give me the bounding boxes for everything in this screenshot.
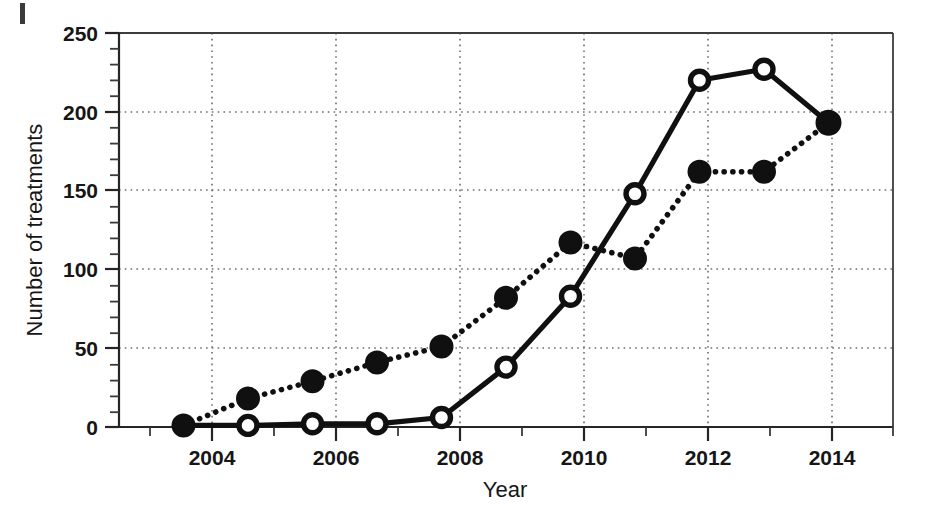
vertical-gridlines: [212, 33, 832, 427]
series-dotted-line: [184, 123, 829, 426]
x-axis-tick-labels: 2004 2006 2008 2010 2012 2014: [189, 446, 856, 469]
x-axis-minor-ticks: [150, 427, 893, 436]
horizontal-gridlines: [119, 112, 893, 348]
series-dotted-markers: [173, 111, 841, 437]
x-tick-label: 2014: [809, 446, 856, 469]
y-axis-tick-labels: 250 200 150 100 50 0: [63, 22, 98, 439]
x-tick-label: 2012: [685, 446, 732, 469]
y-tick-label: 50: [75, 337, 98, 360]
x-tick-label: 2004: [189, 446, 236, 469]
y-tick-label: 0: [86, 416, 98, 439]
y-tick-label: 100: [63, 258, 98, 281]
y-tick-label: 200: [63, 101, 98, 124]
x-tick-label: 2006: [313, 446, 360, 469]
y-tick-label: 150: [63, 179, 98, 202]
y-axis-major-ticks: [105, 33, 119, 427]
y-axis-minor-ticks: [110, 49, 119, 412]
y-tick-label: 250: [63, 22, 98, 45]
x-tick-label: 2010: [561, 446, 608, 469]
x-tick-label: 2008: [437, 446, 484, 469]
figure-container: 250 200 150 100 50 0 2004 2006 2008 2010…: [0, 0, 930, 508]
x-axis-title: Year: [483, 477, 527, 502]
y-axis-title: Number of treatments: [22, 124, 47, 337]
line-chart: 250 200 150 100 50 0 2004 2006 2008 2010…: [0, 0, 930, 508]
